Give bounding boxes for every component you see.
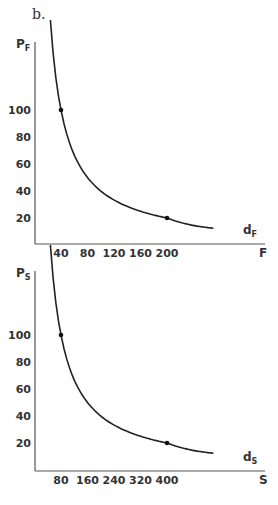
y-axis-label: PS bbox=[16, 266, 31, 282]
data-point-marker bbox=[165, 216, 170, 221]
x-tick-label: 120 bbox=[103, 247, 126, 260]
x-tick-label: 80 bbox=[80, 247, 96, 260]
y-tick-label: 40 bbox=[16, 410, 32, 423]
y-tick-label: 80 bbox=[16, 131, 32, 144]
y-tick-label: 60 bbox=[16, 383, 32, 396]
curve-label: dS bbox=[243, 450, 258, 466]
y-tick-label: 20 bbox=[16, 437, 32, 450]
y-tick-label: 80 bbox=[16, 356, 32, 369]
x-tick-label: 240 bbox=[103, 474, 126, 487]
x-axis-label: S bbox=[259, 473, 268, 487]
y-tick-label: 20 bbox=[16, 212, 32, 225]
x-tick-label: 400 bbox=[156, 474, 179, 487]
demand-curve bbox=[50, 20, 213, 228]
x-tick-label: 160 bbox=[76, 474, 99, 487]
x-tick-label: 160 bbox=[129, 247, 152, 260]
demand-curve bbox=[50, 245, 213, 453]
curve-label: dF bbox=[243, 223, 257, 239]
x-tick-label: 200 bbox=[156, 247, 179, 260]
y-tick-label: 40 bbox=[16, 185, 32, 198]
x-tick-label: 320 bbox=[129, 474, 152, 487]
y-tick-label: 100 bbox=[8, 329, 31, 342]
demand-curves-figure: PFF100806040204080120160200dFPSS10080604… bbox=[0, 0, 278, 505]
data-point-marker bbox=[59, 108, 64, 113]
x-tick-label: 80 bbox=[53, 474, 69, 487]
x-axis-label: F bbox=[259, 246, 267, 260]
y-axis-label: PF bbox=[16, 37, 30, 53]
y-tick-label: 60 bbox=[16, 158, 32, 171]
x-tick-label: 40 bbox=[53, 247, 69, 260]
y-tick-label: 100 bbox=[8, 104, 31, 117]
data-point-marker bbox=[165, 441, 170, 446]
data-point-marker bbox=[59, 333, 64, 338]
